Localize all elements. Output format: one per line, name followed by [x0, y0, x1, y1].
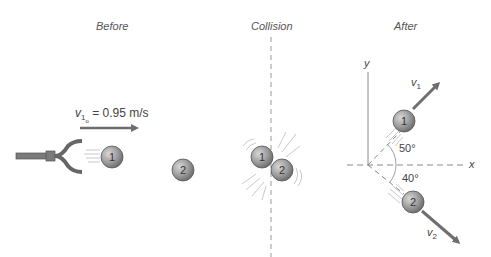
- svg-text:2: 2: [279, 164, 285, 176]
- v2-label: v2: [427, 226, 437, 241]
- x-axis-label: x: [469, 158, 475, 170]
- svg-text:1: 1: [401, 115, 407, 127]
- collision-diagram: 1 2 1 2: [0, 0, 491, 257]
- angle-50-label: 50°: [399, 142, 416, 154]
- path-ball-1: [368, 132, 400, 165]
- angle-arc-50: [387, 144, 396, 165]
- after-title: After: [394, 20, 417, 32]
- y-axis-label: y: [364, 57, 370, 69]
- svg-text:2: 2: [410, 196, 416, 208]
- v1-label: v1: [411, 76, 421, 91]
- svg-text:1: 1: [109, 151, 115, 163]
- before-title: Before: [96, 20, 128, 32]
- svg-text:1: 1: [259, 151, 265, 163]
- svg-text:2: 2: [180, 164, 186, 176]
- collision-panel: 1 2: [242, 37, 302, 257]
- collision-title: Collision: [251, 20, 293, 32]
- motion-lines-ball-2: [388, 184, 404, 203]
- before-panel: 1 2: [16, 128, 194, 181]
- angle-40-label: 40°: [402, 172, 419, 184]
- path-ball-2: [368, 165, 404, 194]
- after-panel: 1 2: [347, 72, 466, 242]
- motion-lines-icon: [84, 150, 100, 162]
- angle-arc-40: [390, 165, 396, 182]
- diagram-graphics: 1 2 1 2: [0, 0, 491, 257]
- cue-stick-icon: [16, 141, 82, 172]
- initial-velocity-label: v1o = 0.95 m/s: [75, 106, 149, 124]
